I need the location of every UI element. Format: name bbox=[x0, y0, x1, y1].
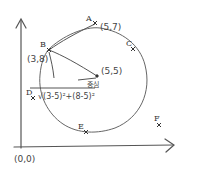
center-dot bbox=[96, 75, 98, 77]
stroke-below-B bbox=[49, 52, 54, 78]
label-B: B bbox=[40, 40, 46, 49]
label-C: C bbox=[126, 39, 132, 48]
coordinate-diagram: A (5,7) B (3,8) C D E F (5,5) 중심 √(3-5)²… bbox=[0, 0, 206, 174]
line-B-to-A bbox=[49, 24, 95, 50]
distance-formula: √(3-5)²+(8-5)² bbox=[38, 92, 95, 101]
coord-B: (3,8) bbox=[27, 54, 48, 64]
arrow-to-center bbox=[78, 78, 96, 80]
label-A: A bbox=[85, 14, 92, 23]
label-E: E bbox=[78, 122, 84, 131]
line-B-to-center bbox=[49, 50, 97, 76]
center-coord: (5,5) bbox=[101, 66, 122, 76]
coord-A: (5,7) bbox=[100, 22, 121, 32]
label-F: F bbox=[154, 114, 160, 123]
center-caption: 중심 bbox=[87, 80, 99, 89]
points bbox=[31, 21, 161, 134]
origin-label: (0,0) bbox=[14, 154, 35, 164]
label-D: D bbox=[26, 88, 32, 97]
x-axis bbox=[14, 145, 173, 147]
point-F bbox=[157, 123, 161, 127]
